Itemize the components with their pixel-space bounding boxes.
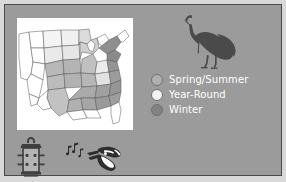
legend-swatch-year-round	[151, 89, 163, 101]
songbird-svg	[65, 137, 123, 179]
screenshot-root: Spring/Summer Year-Round Winter	[0, 0, 286, 182]
legend-swatch-spring-summer	[151, 74, 163, 86]
legend-label-spring-summer: Spring/Summer	[169, 74, 248, 86]
legend-swatch-winter	[151, 104, 163, 116]
legend-label-winter: Winter	[169, 104, 203, 116]
bird-feeder-icon	[16, 135, 50, 179]
content-panel: Spring/Summer Year-Round Winter	[4, 4, 282, 176]
turkey-icon	[174, 10, 244, 70]
range-map[interactable]	[17, 18, 133, 130]
legend-item-winter[interactable]: Winter	[151, 103, 279, 117]
wild-turkey-silhouette	[174, 10, 244, 70]
range-map-svg	[17, 18, 133, 130]
legend-item-year-round[interactable]: Year-Round	[151, 88, 279, 102]
singing-bird-icon	[65, 137, 123, 179]
legend: Spring/Summer Year-Round Winter	[151, 73, 279, 118]
feeder-svg	[16, 135, 50, 179]
legend-item-spring-summer[interactable]: Spring/Summer	[151, 73, 279, 87]
legend-label-year-round: Year-Round	[169, 89, 226, 101]
